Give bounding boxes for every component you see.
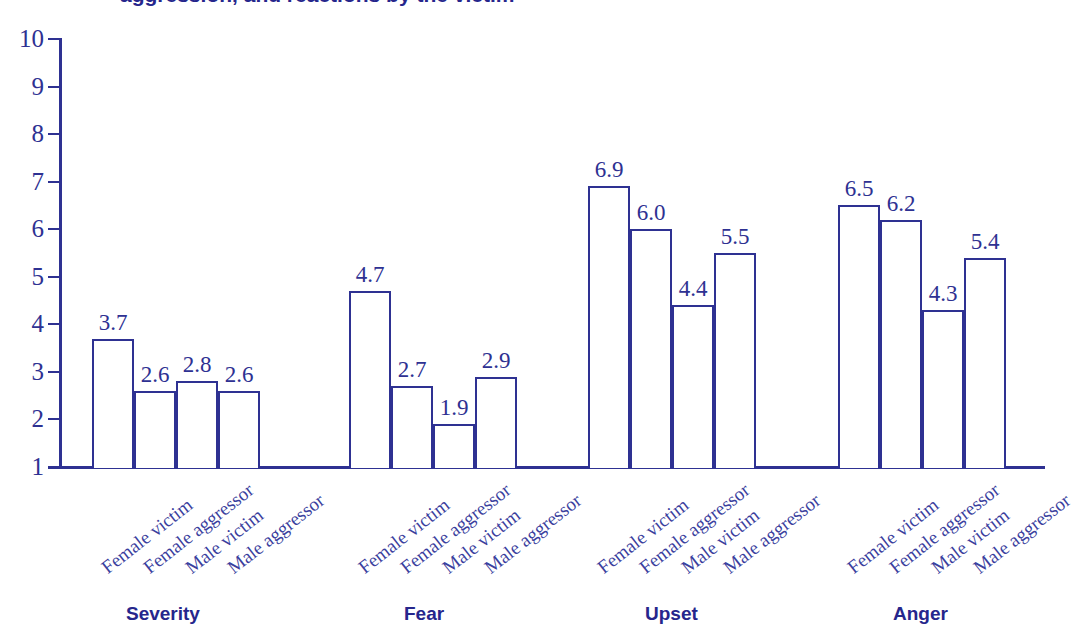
- y-tick-label-3: 3: [4, 359, 44, 384]
- y-tick-3: [48, 371, 60, 373]
- y-tick-label-6: 6: [4, 216, 44, 241]
- y-tick-9: [48, 86, 60, 88]
- y-tick-label-2: 2: [4, 406, 44, 431]
- bar: [588, 186, 630, 468]
- bar: [92, 339, 134, 468]
- y-tick-6: [48, 228, 60, 230]
- bar: [630, 229, 672, 468]
- bar-value-label: 3.7: [83, 311, 143, 334]
- bar-value-label: 4.7: [340, 263, 400, 286]
- y-tick-2: [48, 418, 60, 420]
- y-axis-line: [59, 38, 62, 469]
- group-label-upset: Upset: [645, 604, 698, 623]
- bar-value-label: 2.7: [382, 358, 442, 381]
- y-tick-label-4: 4: [4, 311, 44, 336]
- bar-value-label: 2.9: [466, 349, 526, 372]
- bar-value-label: 6.2: [871, 192, 931, 215]
- y-tick-4: [48, 323, 60, 325]
- bar: [922, 310, 964, 468]
- y-tick-label-9: 9: [4, 74, 44, 99]
- bar-value-label: 5.4: [955, 230, 1015, 253]
- bar: [134, 391, 176, 468]
- group-label-severity: Severity: [126, 604, 200, 623]
- y-tick-label-7: 7: [4, 169, 44, 194]
- y-tick-5: [48, 276, 60, 278]
- bar: [176, 381, 218, 468]
- y-tick-label-8: 8: [4, 121, 44, 146]
- bar: [880, 220, 922, 468]
- bar-value-label: 5.5: [705, 225, 765, 248]
- bar-value-label: 6.0: [621, 201, 681, 224]
- bar: [672, 305, 714, 468]
- y-tick-7: [48, 181, 60, 183]
- y-tick-10: [48, 38, 60, 40]
- bar: [838, 205, 880, 468]
- bar: [964, 258, 1006, 468]
- y-tick-label-5: 5: [4, 264, 44, 289]
- group-label-anger: Anger: [893, 604, 948, 623]
- bar: [714, 253, 756, 468]
- bar: [475, 377, 517, 468]
- group-label-fear: Fear: [404, 604, 444, 623]
- y-tick-8: [48, 133, 60, 135]
- bar: [218, 391, 260, 468]
- bar-value-label: 2.6: [209, 363, 269, 386]
- bar-value-label: 6.9: [579, 158, 639, 181]
- y-tick-label-1: 1: [4, 454, 44, 479]
- bar: [433, 424, 475, 468]
- y-tick-label-10: 10: [4, 26, 44, 51]
- y-tick-1: [48, 466, 60, 468]
